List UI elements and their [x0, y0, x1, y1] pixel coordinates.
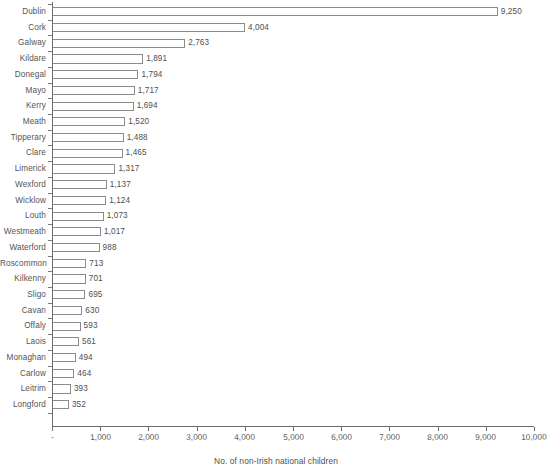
bar-value-label: 701: [89, 273, 103, 284]
bar-row: Donegal1,794: [0, 67, 552, 83]
bar: [52, 337, 79, 346]
plot-area: Dublin9,250Cork4,004Galway2,763Kildare1,…: [0, 0, 552, 475]
bar-rect: [52, 196, 106, 205]
x-axis-tick: [438, 427, 439, 431]
category-label: Meath: [0, 114, 46, 130]
bar-value-label: 1,891: [146, 53, 167, 64]
category-label: Louth: [0, 208, 46, 224]
x-axis-tick: [245, 427, 246, 431]
bar: [52, 102, 134, 111]
bar-value-label: 1,317: [118, 163, 139, 174]
category-label: Waterford: [0, 240, 46, 256]
bar-value-label: 1,137: [110, 179, 131, 190]
x-axis-tick-label: 4,000: [234, 433, 255, 442]
bar: [52, 23, 245, 32]
bar-value-label: 2,763: [188, 37, 209, 48]
bar-row: Cork4,004: [0, 20, 552, 36]
bar-rect: [52, 86, 135, 95]
x-axis-tick: [534, 427, 535, 431]
bar: [52, 164, 115, 173]
bar-rect: [52, 290, 85, 299]
x-axis-tick: [341, 427, 342, 431]
bar-rect: [52, 180, 107, 189]
bar-rect: [52, 274, 86, 283]
category-label: Limerick: [0, 161, 46, 177]
y-axis-line: [52, 2, 53, 426]
x-axis-tick-label: 3,000: [186, 433, 207, 442]
bar: [52, 70, 138, 79]
bar-value-label: 1,794: [141, 69, 162, 80]
bar-value-label: 1,465: [126, 147, 147, 158]
bar-value-label: 630: [85, 305, 99, 316]
category-label: Dublin: [0, 4, 46, 20]
category-label: Donegal: [0, 67, 46, 83]
bar-rect: [52, 23, 245, 32]
bar-rect: [52, 353, 76, 362]
category-label: Sligo: [0, 287, 46, 303]
bar-rect: [52, 384, 71, 393]
category-label: Galway: [0, 35, 46, 51]
bar: [52, 7, 498, 16]
bar-value-label: 695: [88, 289, 102, 300]
bar-value-label: 713: [89, 258, 103, 269]
bar-rect: [52, 259, 86, 268]
x-axis-tick: [389, 427, 390, 431]
bar-rect: [52, 243, 100, 252]
bar: [52, 353, 76, 362]
bar-rect: [52, 369, 74, 378]
bar-rect: [52, 212, 104, 221]
category-label: Carlow: [0, 366, 46, 382]
bar-row: Kerry1,694: [0, 98, 552, 114]
x-axis-tick: [148, 427, 149, 431]
bar-rect: [52, 117, 125, 126]
bar-rect: [52, 337, 79, 346]
bar-row: Sligo695: [0, 287, 552, 303]
bar-value-label: 1,694: [137, 100, 158, 111]
x-axis-tick: [486, 427, 487, 431]
bar-row: Offaly593: [0, 318, 552, 334]
category-label: Wicklow: [0, 193, 46, 209]
bar-value-label: 561: [82, 336, 96, 347]
bar-value-label: 1,488: [127, 132, 148, 143]
bar-rect: [52, 227, 101, 236]
bar: [52, 227, 101, 236]
x-axis-tick-label: 10,000: [521, 432, 547, 442]
bar: [52, 133, 124, 142]
bar-value-label: 1,124: [109, 195, 130, 206]
bar-value-label: 1,017: [104, 226, 125, 237]
bar-row: Limerick1,317: [0, 161, 552, 177]
bar: [52, 196, 106, 205]
x-axis-tick: [52, 427, 53, 431]
bar-row: Westmeath1,017: [0, 224, 552, 240]
category-label: Cavan: [0, 303, 46, 319]
bar-value-label: 464: [77, 368, 91, 379]
bar-rect: [52, 39, 185, 48]
bar: [52, 86, 135, 95]
category-label: Wexford: [0, 177, 46, 193]
bar-row: Cavan630: [0, 303, 552, 319]
bar: [52, 212, 104, 221]
bar-row: Waterford988: [0, 240, 552, 256]
bar: [52, 149, 123, 158]
bar-row: Clare1,465: [0, 145, 552, 161]
x-axis-tick-label: -: [51, 433, 54, 442]
bar-row: Kilkenny701: [0, 271, 552, 287]
bar-row: Laois561: [0, 334, 552, 350]
category-label: Clare: [0, 145, 46, 161]
x-axis-tick-label: 6,000: [331, 433, 352, 442]
bar-rect: [52, 54, 143, 63]
bar: [52, 369, 74, 378]
category-label: Laois: [0, 334, 46, 350]
category-label: Monaghan: [0, 350, 46, 366]
bar-row: Monaghan494: [0, 350, 552, 366]
bar-rect: [52, 306, 82, 315]
bar-row: Meath1,520: [0, 114, 552, 130]
bar-row: Wicklow1,124: [0, 193, 552, 209]
bar-value-label: 352: [72, 399, 86, 410]
bar-row: Roscommon713: [0, 256, 552, 272]
bar-value-label: 1,073: [107, 210, 128, 221]
x-axis-tick: [197, 427, 198, 431]
bar: [52, 243, 100, 252]
bar-value-label: 1,520: [128, 116, 149, 127]
bar-value-label: 393: [74, 383, 88, 394]
